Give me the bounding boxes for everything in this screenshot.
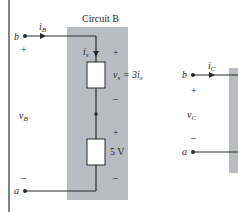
terminal-c-b-label: b — [182, 70, 187, 80]
middle-node — [94, 112, 98, 116]
terminal-c-a-label: a — [182, 147, 187, 157]
dep-source-plus: + — [113, 48, 119, 58]
circuit-diagram — [0, 0, 238, 212]
dependent-source-box — [87, 62, 105, 88]
circuit-c-box — [229, 68, 238, 173]
voltage-source-5v-box — [87, 139, 105, 165]
terminal-a-node — [23, 189, 27, 193]
terminal-c-a-node — [191, 150, 195, 154]
terminal-b-label: b — [14, 32, 19, 42]
voltage-vb-label: vB — [19, 111, 28, 123]
vs-plus: + — [113, 128, 119, 138]
vb-plus: + — [21, 45, 27, 55]
terminal-a-label: a — [14, 186, 19, 196]
vc-plus: + — [191, 86, 197, 96]
dep-source-label: vs = 3is — [113, 70, 142, 82]
current-ic-label: iC — [208, 61, 215, 73]
terminal-b-node — [23, 34, 27, 38]
terminal-c-b-node — [191, 73, 195, 77]
circuit-b-title: Circuit B — [82, 14, 119, 24]
vb-minus: – — [21, 173, 26, 183]
vc-minus: – — [191, 133, 196, 143]
current-is-label: is — [83, 47, 89, 59]
dep-source-minus: – — [113, 94, 118, 104]
voltage-vc-label: vC — [187, 110, 196, 122]
vs-minus: – — [113, 173, 118, 183]
vs-5v-label: 5 V — [110, 147, 125, 157]
current-ib-label: iB — [39, 22, 46, 34]
